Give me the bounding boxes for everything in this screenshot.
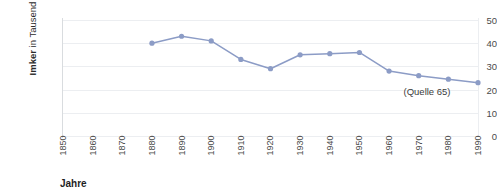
chart-figure: 50403020100 Imker in Tausend 18501860187…: [0, 0, 497, 196]
x-axis-tick-text: 1990: [474, 135, 483, 155]
y-axis-tick: 30: [443, 62, 497, 72]
y-axis-title: Imker in Tausend: [27, 0, 38, 99]
x-axis-tick-text: 1950: [355, 135, 364, 155]
x-axis-tick: 1990: [458, 141, 497, 150]
x-axis-tick-text: 1970: [414, 135, 423, 155]
y-axis-tick: 40: [443, 39, 497, 49]
x-axis-tick-text: 1890: [177, 135, 186, 155]
plot-area: [63, 20, 478, 136]
x-axis-tick-text: 1880: [147, 135, 156, 155]
x-axis-tick-text: 1870: [118, 135, 127, 155]
x-axis-tick-text: 1910: [236, 135, 245, 155]
x-axis-title: Jahre: [60, 178, 87, 189]
y-axis-title-bold: Imker: [27, 50, 38, 75]
source-annotation: (Quelle 65): [404, 86, 451, 97]
x-axis-tick-text: 1850: [59, 135, 68, 155]
x-axis-tick-text: 1960: [385, 135, 394, 155]
x-axis-tick-text: 1980: [444, 135, 453, 155]
y-axis-tick: 50: [443, 16, 497, 26]
y-axis-tick: 10: [443, 109, 497, 119]
x-axis-tick-text: 1920: [266, 135, 275, 155]
y-axis-tick: 20: [443, 86, 497, 96]
gridline: [63, 66, 478, 67]
x-axis-tick-text: 1940: [325, 135, 334, 155]
gridline: [63, 20, 478, 21]
plot-right-edge: [478, 18, 479, 137]
x-axis-tick-text: 1930: [296, 135, 305, 155]
gridline: [63, 43, 478, 44]
y-axis-title-rest: in Tausend: [27, 2, 38, 50]
x-axis-tick-text: 1860: [88, 135, 97, 155]
x-axis-tick-text: 1900: [207, 135, 216, 155]
gridline: [63, 113, 478, 114]
